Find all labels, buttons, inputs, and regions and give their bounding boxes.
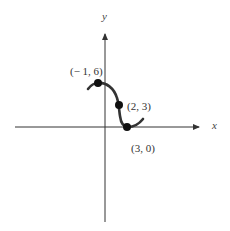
point-neg1-6 [94, 79, 102, 87]
graph-canvas: y x (− 1, 6) (2, 3) (3, 0) [0, 0, 230, 231]
point-label-3-0: (3, 0) [131, 142, 155, 155]
y-axis-label: y [101, 10, 107, 22]
point-2-3 [115, 101, 123, 109]
point-label-2-3: (2, 3) [127, 100, 151, 113]
point-3-0 [123, 123, 131, 131]
point-label-neg1-6: (− 1, 6) [70, 65, 103, 78]
x-axis-label: x [211, 119, 217, 131]
